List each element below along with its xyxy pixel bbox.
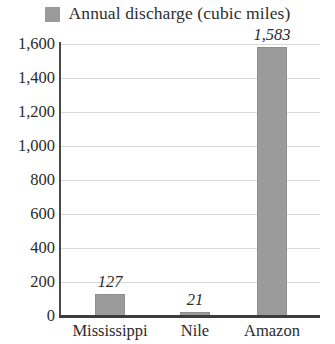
y-axis-tick-label: 1,000	[1, 138, 55, 155]
gridline	[60, 44, 320, 45]
y-axis-tick-label: 600	[1, 206, 55, 223]
plot-area: 127211,583	[60, 44, 320, 316]
x-axis-label-nile: Nile	[181, 320, 209, 341]
x-axis-line	[59, 315, 320, 318]
legend-label: Annual discharge (cubic miles)	[69, 5, 291, 23]
y-axis-tick-label: 1,200	[1, 104, 55, 121]
y-axis-tick-label: 1,600	[1, 36, 55, 53]
bar-value-label: 1,583	[253, 27, 290, 44]
y-axis-tick-label: 0	[1, 308, 55, 325]
y-axis-line	[59, 42, 61, 318]
y-axis-tick-labels: 02004006008001,0001,2001,4001,600	[0, 44, 55, 316]
bar-amazon[interactable]	[257, 47, 287, 316]
x-axis-label-amazon: Amazon	[244, 320, 300, 341]
bar-mississippi[interactable]	[95, 294, 125, 316]
legend-color-swatch-icon	[45, 7, 60, 22]
x-axis-label-mississippi: Mississippi	[72, 320, 147, 341]
chart-legend: Annual discharge (cubic miles)	[0, 0, 335, 28]
bar-value-label: 21	[187, 292, 204, 309]
x-axis-category-labels: MississippiNileAmazon	[60, 320, 320, 344]
y-axis-tick-label: 800	[1, 172, 55, 189]
bar-chart: Annual discharge (cubic miles) 020040060…	[0, 0, 335, 344]
y-axis-tick-label: 1,400	[1, 70, 55, 87]
y-axis-tick-label: 400	[1, 240, 55, 257]
y-axis-tick-label: 200	[1, 274, 55, 291]
bar-value-label: 127	[98, 274, 123, 291]
